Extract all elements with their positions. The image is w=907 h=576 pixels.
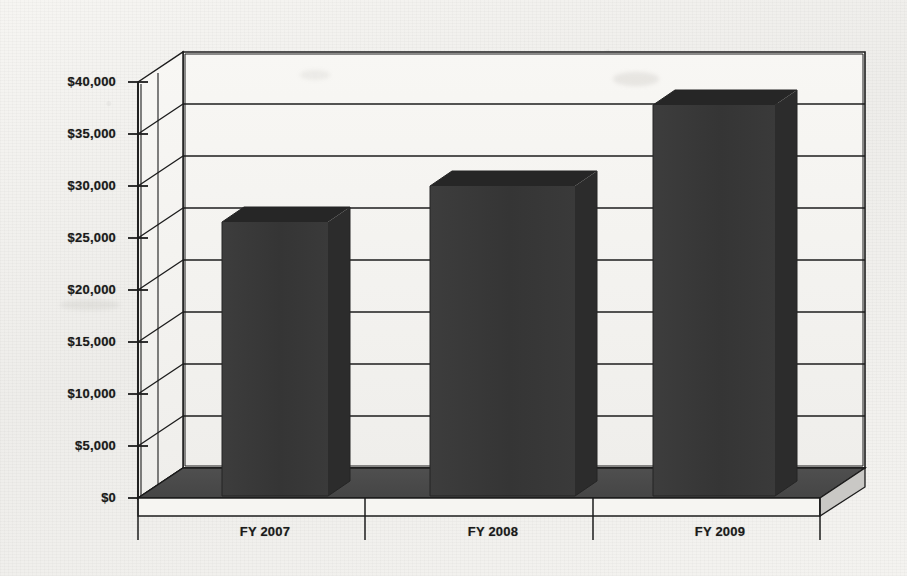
y-tick-label-20000: $20,000 xyxy=(0,282,116,297)
y-tick-label-30000: $30,000 xyxy=(0,178,116,193)
bar-fy-2009[interactable] xyxy=(653,90,797,496)
y-tick-label-40000: $40,000 xyxy=(0,74,116,89)
bar-chart-3d: $40,000 $35,000 $30,000 $25,000 $20,000 … xyxy=(0,0,907,576)
y-tick-label-0: $0 xyxy=(0,490,116,505)
x-category-label-fy-2008: FY 2008 xyxy=(394,524,592,539)
bar-fy-2007[interactable] xyxy=(222,207,350,496)
y-tick-label-10000: $10,000 xyxy=(0,386,116,401)
y-tick-label-25000: $25,000 xyxy=(0,230,116,245)
y-tick-label-5000: $5,000 xyxy=(0,438,116,453)
chart-svg xyxy=(0,0,907,576)
x-category-label-fy-2007: FY 2007 xyxy=(166,524,364,539)
y-tick-label-15000: $15,000 xyxy=(0,334,116,349)
x-category-label-fy-2009: FY 2009 xyxy=(621,524,819,539)
bar-fy-2008[interactable] xyxy=(430,171,597,496)
y-tick-label-35000: $35,000 xyxy=(0,126,116,141)
